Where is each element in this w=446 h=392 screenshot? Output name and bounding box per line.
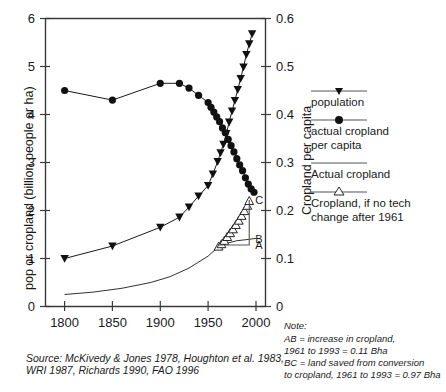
legend-label-notech-1: Cropland, if no tech [311,197,411,210]
series-2 [65,238,256,294]
marker-circle [109,97,116,104]
y2tick-0-1: 0.1 [276,251,294,266]
series-layer [60,30,257,294]
y2tick-0-3: 0.3 [276,155,294,170]
marker-triangle-down [156,224,164,232]
marker-triangle-down [248,30,256,38]
marker-circle [216,118,223,125]
xtick-1850: 1850 [98,315,127,330]
circle-icon [335,116,343,124]
marker-circle [61,87,68,94]
marker-triangle-down [225,119,233,127]
marker-circle [157,80,164,87]
marker-circle [233,155,240,162]
annotation-label-B: B [255,233,262,245]
left-axis-title: pop or cropland (billion people or ha) [22,86,36,290]
plot-frame [46,18,266,307]
series-path-2 [65,238,256,294]
marker-triangle-down [175,214,183,222]
legend-label-notech-2: change after 1961 [311,211,404,224]
note-line-2: 1961 to 1993 = 0.11 Bha [284,345,388,357]
right-axis-tick-labels: 0.6 0.5 0.4 0.3 0.2 0.1 0 [276,11,294,314]
xtick-2000: 2000 [242,315,271,330]
y2tick-0-4: 0.4 [276,107,294,122]
triangle-up-open-icon [334,187,344,195]
marker-circle [195,92,202,99]
annotation-label-C: C [255,194,263,206]
y2tick-0-5: 0.5 [276,59,294,74]
marker-circle [185,85,192,92]
marker-triangle-down [245,40,253,48]
legend-label-percapita-2: per capita [311,139,362,152]
series-3 [214,197,253,251]
marker-circle [225,136,232,143]
ytick-6: 6 [28,11,35,26]
note-heading: Note: [284,320,307,332]
marker-triangle-down [209,170,217,178]
marker-triangle-down [231,97,239,105]
series-1 [61,80,258,196]
xtick-1950: 1950 [194,315,223,330]
marker-triangle-down [60,255,68,263]
legend-label-population: population [311,96,364,109]
y2tick-0-6: 0.6 [276,11,294,26]
xtick-1900: 1900 [146,315,175,330]
marker-circle [230,148,237,155]
marker-triangle-down [228,108,236,116]
note-line-4: to cropland, 1961 to 1993 = 0.97 Bha [284,369,441,381]
y2tick-0: 0 [276,299,283,314]
marker-circle [239,167,246,174]
marker-circle [227,142,234,149]
marker-circle [176,80,183,87]
marker-circle [222,129,229,136]
marker-triangle-down [213,158,221,166]
marker-triangle-down [234,86,242,94]
legend-label-percapita-1: actual cropland [311,125,389,138]
marker-triangle-down [242,51,250,59]
legend-label-actual-cropland: Actual cropland [311,168,390,181]
source-line-2: WRI 1987, Richards 1990, FAO 1996 [26,364,199,377]
figure-root: 6 5 4 3 2 1 0 0.6 0.5 0.4 0.3 0.2 0.1 0 [0,0,446,392]
y2tick-0-2: 0.2 [276,203,294,218]
bottom-axis-tick-labels: 1800 1850 1900 1950 2000 [50,315,270,330]
xtick-1800: 1800 [50,315,79,330]
marker-circle [242,174,249,181]
source-line-1: Source: McKivedy & Jones 1978, Houghton … [26,352,284,365]
note-line-3: BC = land saved from conversion [284,357,424,369]
note-line-1: AB = increase in cropland, [284,333,395,345]
ytick-5: 5 [28,59,35,74]
marker-triangle-down [236,75,244,83]
marker-triangle-down [216,149,224,157]
ytick-0: 0 [28,299,35,314]
marker-triangle-down [239,63,247,71]
series-0 [60,30,256,262]
